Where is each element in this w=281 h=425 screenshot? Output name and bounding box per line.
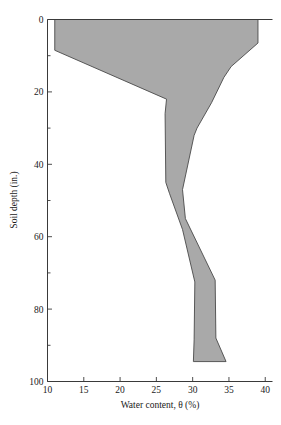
y-tick-label: 20 (34, 87, 44, 97)
x-tick-label: 40 (260, 385, 270, 395)
soil-water-content-chart: 10152025303540 020406080100 Water conten… (0, 0, 281, 425)
x-axis-ticks (48, 377, 266, 382)
chart-canvas: 10152025303540 020406080100 Water conten… (0, 0, 281, 425)
y-tick-label: 40 (34, 160, 44, 170)
x-tick-label: 15 (79, 385, 89, 395)
water-content-band (55, 20, 258, 362)
x-tick-label: 25 (152, 385, 162, 395)
shaded-range-area (55, 20, 258, 362)
y-axis-tick-labels: 020406080100 (29, 15, 44, 387)
x-tick-label: 20 (115, 385, 125, 395)
x-axis-title: Water content, θ (%) (121, 400, 200, 411)
y-tick-label: 100 (29, 377, 44, 387)
y-axis-title: Soil depth (in.) (9, 171, 20, 228)
y-tick-label: 80 (34, 305, 44, 315)
x-tick-label: 30 (188, 385, 198, 395)
y-tick-label: 60 (34, 232, 44, 242)
y-tick-label: 0 (39, 15, 44, 25)
x-axis-tick-labels: 10152025303540 (43, 385, 270, 395)
x-tick-label: 10 (43, 385, 53, 395)
x-tick-label: 35 (224, 385, 234, 395)
y-axis-ticks (48, 20, 53, 382)
